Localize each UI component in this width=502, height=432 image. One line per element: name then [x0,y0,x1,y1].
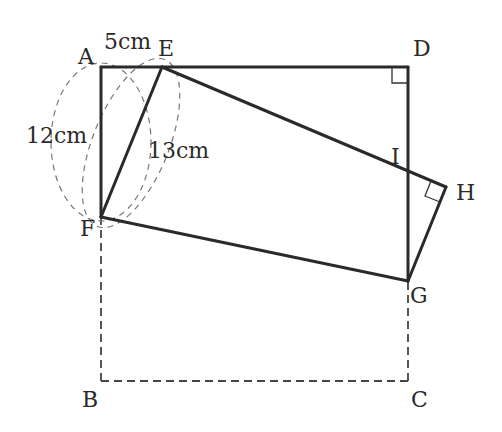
label-D: D [413,36,431,61]
label-B: B [82,387,98,412]
measure-AE: 5cm [104,29,151,54]
label-F: F [80,216,95,241]
measure-AF: 12cm [26,123,87,148]
label-I: I [391,144,400,169]
label-A: A [77,44,95,69]
label-G: G [410,283,428,308]
label-E: E [158,36,174,61]
label-C: C [411,387,428,412]
geometry-diagram: A E D I H G F B C 5cm 12cm 13cm [0,0,502,432]
measure-EF: 13cm [148,138,209,163]
segment-EH [162,67,446,187]
segment-HG [408,187,446,281]
label-H: H [456,180,475,205]
right-angle-mark-D [392,67,408,83]
segment-FG [101,217,408,281]
